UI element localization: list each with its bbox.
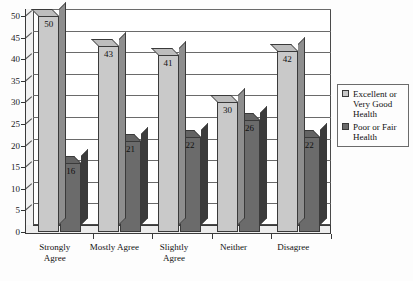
legend-item-excellent-or-very-good-health[interactable]: Excellent or Very Good Health xyxy=(342,89,405,119)
y-axis-tick-label: 15 xyxy=(2,163,20,172)
y-axis-tick-label: 35 xyxy=(2,77,20,86)
y-axis-tick-label: 25 xyxy=(2,120,20,129)
x-axis-tick-mark xyxy=(331,234,332,239)
bar-side-face xyxy=(201,123,208,225)
bar-front-face xyxy=(38,16,59,232)
chart-floor-left-edge xyxy=(25,225,26,234)
bar-slightly-agree-series-1 xyxy=(158,55,179,232)
bar-front-face xyxy=(217,102,238,232)
x-axis-category-label: Mostly Agree xyxy=(85,242,145,253)
bar-mostly-agree-series-1 xyxy=(98,46,119,232)
x-axis-tick-mark xyxy=(93,234,94,239)
y-axis-tick-label: 30 xyxy=(2,98,20,107)
x-axis-tick-mark xyxy=(271,234,272,239)
gridline xyxy=(33,9,331,10)
chart-floor-right-edge xyxy=(330,225,331,234)
bar-side-face xyxy=(320,123,327,225)
bar-value-label: 26 xyxy=(239,124,260,133)
x-axis-tick-mark xyxy=(152,234,153,239)
bar-side-face xyxy=(298,37,305,225)
y-axis-tick-label: 45 xyxy=(2,34,20,43)
x-axis-category-label: Disagree xyxy=(263,242,323,253)
chart-floor-front-edge xyxy=(25,233,331,234)
bar-side-face xyxy=(238,88,245,225)
y-axis-tick-label: 10 xyxy=(2,185,20,194)
bar-value-label: 30 xyxy=(217,106,238,115)
chart-container: 05101520253035404550 5016432141223026422… xyxy=(0,0,413,281)
bar-side-face xyxy=(81,149,88,225)
bar-side-face xyxy=(119,32,126,225)
x-axis-tick-mark xyxy=(212,234,213,239)
chart-left-wall xyxy=(25,9,33,225)
bar-disagree-series-1 xyxy=(277,51,298,232)
bar-side-face xyxy=(59,2,66,225)
bar-side-face xyxy=(141,127,148,225)
bar-value-label: 43 xyxy=(98,50,119,59)
bar-front-face xyxy=(277,51,298,232)
bar-side-face xyxy=(179,41,186,225)
x-axis-category-label: StronglyAgree xyxy=(25,242,85,264)
y-axis-line xyxy=(25,9,26,226)
bar-strongly-agree-series-1 xyxy=(38,16,59,232)
bar-value-label: 42 xyxy=(277,55,298,64)
legend-swatch-icon xyxy=(342,90,349,97)
gridline xyxy=(33,31,331,32)
legend-item-label: Excellent or Very Good Health xyxy=(353,89,397,119)
bar-side-face xyxy=(260,106,267,225)
bar-value-label: 50 xyxy=(38,20,59,29)
x-axis-category-label: Neither xyxy=(204,242,264,253)
y-axis-tick-label: 5 xyxy=(2,206,20,215)
y-axis-tick-label: 50 xyxy=(2,12,20,21)
bar-value-label: 16 xyxy=(60,167,81,176)
bar-front-face xyxy=(158,55,179,232)
bar-value-label: 21 xyxy=(120,145,141,154)
bar-value-label: 22 xyxy=(180,141,201,150)
y-axis-tick-label: 20 xyxy=(2,142,20,151)
y-axis-tick-label: 0 xyxy=(2,228,20,237)
y-axis-tick-label: 40 xyxy=(2,55,20,64)
x-axis-category-label: SlightlyAgree xyxy=(144,242,204,264)
legend-swatch-icon xyxy=(342,123,349,130)
bar-neither-series-1 xyxy=(217,102,238,232)
bar-value-label: 41 xyxy=(158,59,179,68)
legend-item-poor-or-fair-health[interactable]: Poor or Fair Health xyxy=(342,122,405,142)
bar-value-label: 22 xyxy=(299,141,320,150)
chart-legend: Excellent or Very Good Health Poor or Fa… xyxy=(337,84,409,147)
bar-front-face xyxy=(98,46,119,232)
legend-item-label: Poor or Fair Health xyxy=(353,122,397,142)
